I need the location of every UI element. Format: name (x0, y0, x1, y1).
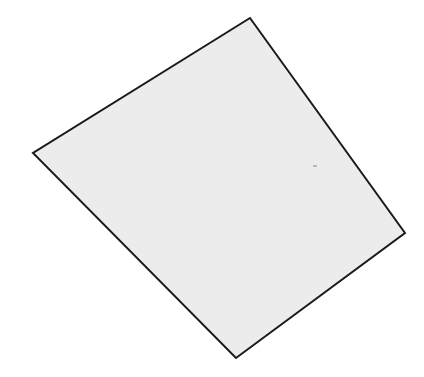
diagram-canvas (0, 0, 424, 377)
quadrilateral-shape (33, 18, 405, 358)
